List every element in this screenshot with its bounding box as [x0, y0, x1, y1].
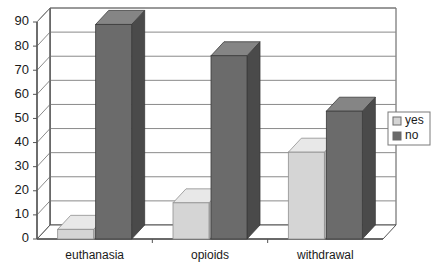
- chart-canvas: 0102030405060708090euthanasiaopioidswith…: [0, 0, 433, 267]
- legend-label-yes: yes: [405, 113, 424, 127]
- x-axis-labels: euthanasiaopioidswithdrawal: [65, 248, 353, 262]
- legend-swatch-no: [393, 132, 401, 140]
- bar-front: [173, 203, 209, 239]
- legend-label-no: no: [405, 128, 419, 142]
- y-tick-label: 70: [15, 62, 29, 77]
- plot-left-wall: [37, 8, 50, 239]
- x-tick-label: euthanasia: [65, 248, 124, 262]
- bar-front: [96, 24, 132, 239]
- y-tick-label: 90: [15, 13, 29, 28]
- y-tick-label: 40: [15, 134, 29, 149]
- legend-swatch-yes: [393, 117, 401, 125]
- y-tick-label: 10: [15, 206, 29, 221]
- y-tick-label: 80: [15, 38, 29, 53]
- legend: yesno: [388, 112, 430, 145]
- y-tick-label: 60: [15, 86, 29, 101]
- bar-opioids-no: [211, 42, 260, 239]
- y-tick-label: 50: [15, 110, 29, 125]
- bar-side: [362, 97, 375, 239]
- y-tick-label: 20: [15, 182, 29, 197]
- bar-withdrawal-no: [326, 97, 375, 239]
- x-tick-label: withdrawal: [296, 248, 354, 262]
- bar-front: [211, 56, 247, 239]
- y-tick-label: 30: [15, 158, 29, 173]
- y-tick-label: 0: [22, 230, 29, 245]
- bar-side: [132, 10, 145, 239]
- bar-chart: 0102030405060708090euthanasiaopioidswith…: [0, 0, 433, 267]
- bar-front: [326, 111, 362, 239]
- x-tick-label: opioids: [191, 248, 229, 262]
- bar-side: [247, 42, 260, 239]
- bar-front: [288, 152, 324, 239]
- bar-front: [58, 229, 94, 239]
- bar-euthanasia-no: [96, 10, 145, 239]
